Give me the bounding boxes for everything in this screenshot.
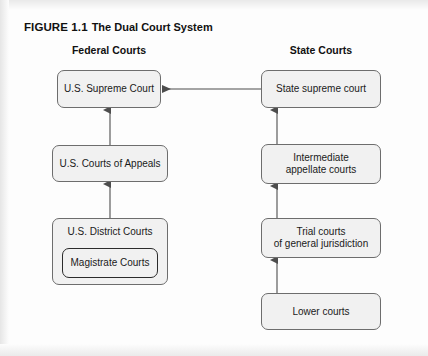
node-label: U.S. Supreme Court [64,83,154,95]
column-header-state-courts: State Courts [261,44,381,56]
page-edge-bottom [0,344,428,356]
figure-page: FIGURE 1.1The Dual Court System Federal … [0,0,428,356]
node-lower-courts[interactable]: Lower courts [261,293,381,330]
node-label: Trial courts of general jurisdiction [274,226,369,250]
page-edge-left [0,0,9,356]
node-label: Lower courts [292,306,349,318]
node-trial-courts[interactable]: Trial courts of general jurisdiction [261,218,381,258]
node-label: U.S. District Courts [67,226,152,238]
node-us-supreme-court[interactable]: U.S. Supreme Court [57,70,161,108]
node-us-courts-of-appeals[interactable]: U.S. Courts of Appeals [52,145,168,182]
node-label: U.S. Courts of Appeals [59,158,160,170]
figure-caption: FIGURE 1.1The Dual Court System [24,21,213,34]
figure-title: The Dual Court System [92,21,213,33]
node-intermediate-appellate-courts[interactable]: Intermediate appellate courts [261,144,381,184]
node-label: Magistrate Courts [71,257,150,269]
node-magistrate-courts[interactable]: Magistrate Courts [62,248,158,278]
node-state-supreme-court[interactable]: State supreme court [261,70,381,108]
node-label: Intermediate appellate courts [286,152,357,176]
page-edge-top [0,0,428,10]
node-label: State supreme court [276,83,366,95]
column-header-federal-courts: Federal Courts [57,44,161,56]
figure-number: FIGURE 1.1 [24,21,88,33]
